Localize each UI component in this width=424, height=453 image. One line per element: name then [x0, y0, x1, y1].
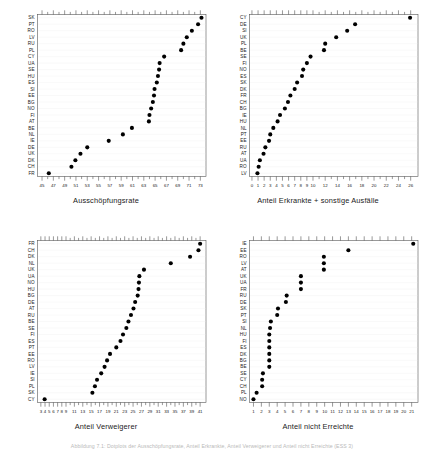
data-point [149, 106, 153, 110]
data-point [118, 339, 122, 343]
y-tick-label: CY [240, 377, 246, 382]
x-tick-label: 3 [40, 409, 43, 414]
x-tick-label: 16 [347, 183, 352, 188]
y-tick-label: SK [240, 80, 247, 85]
y-tick-label: AT [29, 306, 35, 311]
data-point [267, 139, 271, 143]
y-tick-label: LV [29, 364, 35, 369]
data-point [267, 365, 271, 369]
data-point [152, 87, 156, 91]
x-tick-label: 11 [72, 409, 77, 414]
x-tick-label: 15 [89, 409, 94, 414]
y-tick-label: DE [28, 145, 34, 150]
data-point [285, 294, 289, 298]
x-tick-label: 49 [62, 183, 67, 188]
y-tick-label: LV [29, 35, 35, 40]
y-tick-label: HU [240, 119, 247, 124]
data-point [260, 378, 264, 382]
x-axis-title-1: Ausschöpfungsrate [0, 196, 212, 205]
x-tick-label: 0 [251, 183, 254, 188]
y-tick-label: AT [241, 267, 247, 272]
y-tick-label: CY [28, 397, 34, 402]
figure-page: SKPTROLVRUPLCYUASEHUESSIEEBGNOFIATBENLIE… [0, 0, 424, 453]
y-tick-label: PT [29, 345, 35, 350]
y-tick-label: PL [241, 390, 247, 395]
data-point [188, 255, 192, 259]
data-point [334, 35, 338, 39]
y-tick-label: PT [29, 22, 35, 27]
data-point [199, 16, 203, 20]
data-point [276, 119, 280, 123]
data-point [261, 371, 265, 375]
data-point [323, 42, 327, 46]
y-tick-label: EE [240, 138, 246, 143]
y-tick-label: SI [242, 28, 246, 33]
y-tick-label: BE [28, 126, 34, 131]
data-point [124, 326, 128, 330]
y-tick-label: FI [30, 332, 34, 337]
data-point [267, 339, 271, 343]
data-point [300, 74, 304, 78]
y-tick-label: BG [28, 100, 35, 105]
y-tick-label: AT [29, 119, 35, 124]
data-point [43, 397, 47, 401]
panel-anteil-verweigerer: FRCHDKNLUKUANOHUBGDEATRUBESEFIESPTEEROLV… [0, 226, 212, 439]
x-tick-label: 31 [156, 409, 161, 414]
y-tick-label: SK [28, 390, 35, 395]
data-point [276, 306, 280, 310]
data-point [130, 126, 134, 130]
y-tick-label: PT [241, 313, 247, 318]
panel-ausschoepfungsrate: SKPTROLVRUPLCYUASEHUESSIEEBGNOFIATBENLIE… [0, 0, 212, 213]
dotplot-anteil-verweigerer: FRCHDKNLUKUANOHUBGDEATRUBESEFIESPTEEROLV… [0, 226, 212, 439]
data-point [133, 300, 137, 304]
x-tick-label: 12 [323, 183, 328, 188]
y-tick-label: NL [241, 326, 247, 331]
x-tick-label: 20 [401, 409, 406, 414]
data-point [275, 313, 279, 317]
y-tick-label: CH [28, 248, 35, 253]
data-point [196, 248, 200, 252]
x-tick-label: 5 [48, 409, 51, 414]
data-point [131, 306, 135, 310]
dotplot-anteil-erkrankte: CYDESIUKPLBESEFINOESSKDKFRCHBGIEHUNLPTEE… [212, 0, 424, 213]
y-tick-label: LV [241, 261, 247, 266]
data-point [85, 145, 89, 149]
data-point [322, 261, 326, 265]
data-point [299, 287, 303, 291]
y-tick-label: RU [240, 145, 247, 150]
y-tick-label: DK [240, 352, 247, 357]
data-point [411, 242, 415, 246]
dotplot-svg-1: SKPTROLVRUPLCYUASEHUESSIEEBGNOFIATBENLIE… [0, 0, 212, 196]
data-point [152, 93, 156, 97]
data-point [284, 300, 288, 304]
x-tick-label: 59 [119, 183, 124, 188]
y-tick-label: SE [28, 326, 34, 331]
dotplot-svg-4: IEEEROLVATUKUAFRRUDESKPTSINLHUFIESDKBGBE… [212, 226, 424, 422]
x-tick-label: 5 [284, 409, 287, 414]
x-tick-label: 53 [85, 183, 90, 188]
data-point [147, 119, 151, 123]
y-tick-label: ES [28, 80, 34, 85]
x-tick-label: 37 [181, 409, 186, 414]
data-point [158, 61, 162, 65]
x-tick-label: 6 [52, 409, 55, 414]
y-tick-label: IE [242, 241, 246, 246]
data-point [126, 319, 130, 323]
y-tick-label: BG [240, 358, 247, 363]
data-point [263, 145, 267, 149]
data-point [322, 268, 326, 272]
x-tick-label: 10 [311, 183, 316, 188]
y-tick-label: SK [240, 306, 247, 311]
x-tick-label: 10 [322, 409, 327, 414]
data-point [255, 391, 259, 395]
data-point [255, 171, 259, 175]
x-tick-label: 1 [252, 409, 255, 414]
y-tick-label: NO [28, 106, 35, 111]
x-tick-label: 23 [122, 409, 127, 414]
dotplot-ausschoepfungsrate: SKPTROLVRUPLCYUASEHUESSIEEBGNOFIATBENLIE… [0, 0, 212, 213]
data-point [185, 35, 189, 39]
y-tick-label: DK [28, 158, 35, 163]
y-tick-label: FI [242, 61, 246, 66]
data-point [198, 242, 202, 246]
y-tick-label: RO [28, 28, 35, 33]
